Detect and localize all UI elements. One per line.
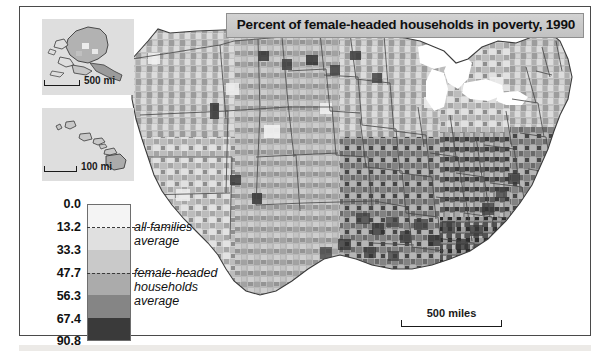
legend-value-3: 47.7: [46, 267, 84, 280]
legend-note-all-families-line1: all families: [134, 220, 192, 234]
legend-note-female-headed: female-headed households average: [134, 266, 217, 308]
legend-note-female-headed-line3: average: [134, 294, 217, 308]
hawaii-scalebar: 100 mi: [44, 161, 112, 172]
legend-value-0: 0.0: [46, 198, 84, 211]
alaska-scalebar: 500 mi: [44, 75, 115, 86]
alaska-scalebar-label: 500 mi: [84, 75, 115, 86]
hawaii-scalebar-label: 100 mi: [81, 161, 112, 172]
hawaii-scalebar-line: [44, 166, 77, 172]
legend-value-4: 56.3: [46, 290, 84, 303]
legend-value-5: 67.4: [46, 313, 84, 326]
main-scalebar: 500 miles: [401, 307, 502, 327]
map-legend[interactable]: 0.0 13.2 33.3 47.7 56.3 67.4 90.: [46, 204, 211, 342]
legend-note-all-families-line2: average: [134, 234, 192, 248]
figure-frame: Percent of female-headed households in p…: [19, 6, 591, 336]
legend-value-2: 33.3: [46, 244, 84, 257]
main-scalebar-line: [401, 320, 502, 327]
legend-note-female-headed-line1: female-headed: [134, 266, 217, 280]
bottom-strip: [19, 345, 591, 351]
legend-note-all-families: all families average: [134, 220, 192, 248]
legend-value-1: 13.2: [46, 221, 84, 234]
map-title: Percent of female-headed households in p…: [226, 13, 584, 38]
main-scalebar-label: 500 miles: [427, 307, 477, 319]
legend-note-female-headed-line2: households: [134, 280, 217, 294]
map-figure: Percent of female-headed households in p…: [0, 0, 596, 356]
alaska-scalebar-line: [44, 80, 80, 86]
